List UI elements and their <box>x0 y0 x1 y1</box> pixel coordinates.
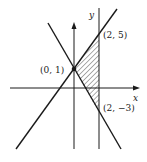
point-marker <box>72 67 77 72</box>
point-label-0-1: (0, 1) <box>40 65 64 75</box>
y-axis-arrow-icon <box>72 22 77 29</box>
x-axis-label: x <box>133 93 138 103</box>
point-label-2-5: (2, 5) <box>103 30 127 40</box>
y-axis-label: y <box>88 10 95 20</box>
line-decreasing <box>48 23 121 149</box>
x-axis <box>10 86 140 91</box>
point-label-2-neg3: (2, −3) <box>103 103 135 113</box>
line-increasing <box>16 9 117 149</box>
coordinate-diagram: y x (0, 1) (2, 5) (2, −3) <box>0 0 147 162</box>
y-axis <box>72 22 77 149</box>
x-axis-arrow-icon <box>133 86 140 91</box>
